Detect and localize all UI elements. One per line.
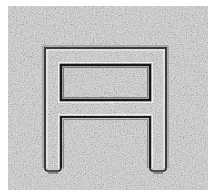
- embossed-letter-a-graphic: [0, 0, 215, 195]
- embossed-letter-image: [0, 0, 215, 195]
